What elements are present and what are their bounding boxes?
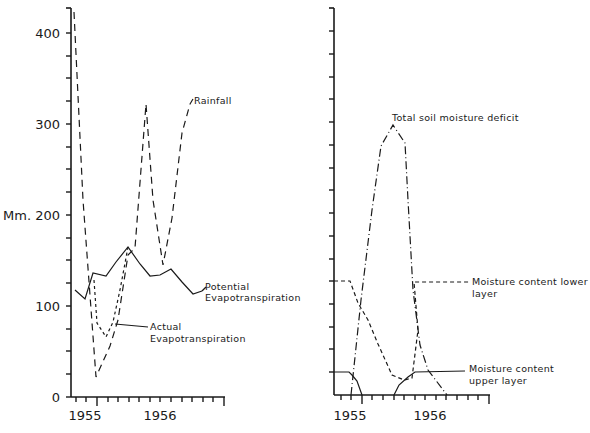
y-label-400: 400 (35, 26, 60, 41)
deficit-label: Total soil moisture deficit (391, 112, 519, 123)
upper-label-line2: upper layer (469, 375, 527, 386)
y-label-0: 0 (52, 390, 60, 405)
right-x-label-1956: 1956 (413, 408, 446, 423)
x-label-1956: 1956 (143, 408, 176, 423)
aet-label-line2: Evapotranspiration (150, 333, 246, 344)
right-chart: 1955 1956 Total soil moisture deficit Mo… (329, 8, 588, 423)
figure: 400 300 Mm. 200 100 0 1955 1956 Rainfall… (0, 0, 590, 433)
left-x-ticks (76, 397, 224, 406)
lower-label-line2: layer (472, 288, 497, 299)
rainfall-label: Rainfall (194, 95, 232, 106)
y-label-300: 300 (35, 117, 60, 132)
right-x-ticks (341, 395, 489, 404)
pet-label-line1: Potential (205, 281, 249, 292)
potential-et-line (75, 247, 202, 299)
actual-et-line (94, 247, 128, 337)
pet-label-line2: Evapotranspiration (205, 292, 301, 303)
aet-label-line1: Actual (150, 321, 182, 332)
aet-leader (115, 324, 148, 327)
x-label-1955: 1955 (68, 408, 101, 423)
y-label-200: Mm. 200 (3, 208, 60, 223)
right-x-label-1955: 1955 (333, 408, 366, 423)
upper-layer-line-2 (394, 371, 465, 395)
upper-label-line1: Moisture content (469, 363, 554, 374)
y-label-100: 100 (35, 299, 60, 314)
upper-layer-line (334, 372, 362, 395)
left-chart: 400 300 Mm. 200 100 0 1955 1956 Rainfall… (3, 8, 301, 423)
lower-label-line1: Moisture content lower (472, 276, 588, 287)
soil-deficit-line (351, 125, 447, 395)
rainfall-leader (190, 99, 193, 104)
